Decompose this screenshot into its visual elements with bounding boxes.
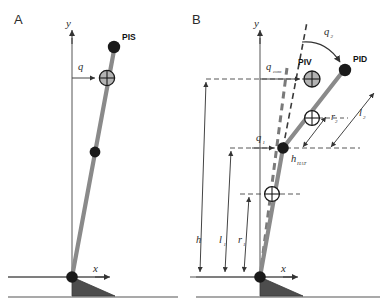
com1-marker-b (265, 187, 280, 202)
com-marker-a (99, 70, 114, 85)
segment1-b (260, 148, 283, 277)
panel-b: B y x PID (190, 12, 380, 297)
length-l2-base: l (359, 107, 362, 118)
length-r1-sub: 1 (243, 242, 246, 247)
com2-marker-b (305, 111, 320, 126)
origin-marker-a (66, 271, 78, 283)
length-r1-label-b: r 1 (238, 234, 246, 247)
angle-q2-sub: 2 (331, 34, 334, 39)
x-axis-label-a: x (92, 262, 98, 274)
piv-com-marker-b (304, 71, 320, 87)
angle-qcom-sub: com (273, 69, 282, 74)
diagram-svg: A y x PIS q (0, 0, 389, 306)
angle-q2-label-b: q 2 (324, 26, 334, 39)
piv-label-b: PIV (298, 57, 312, 67)
length-l2-sub: 2 (363, 115, 366, 120)
y-axis-label-a: y (65, 17, 71, 29)
length-hhat-label-b: h HAT (291, 153, 307, 166)
foot-triangle-b (260, 277, 303, 296)
pid-label-b: PID (353, 54, 367, 64)
hip-joint-marker-b (277, 142, 289, 154)
pid-marker-b (339, 64, 351, 76)
angle-q2-base: q (324, 26, 329, 37)
length-l1-base: l (219, 234, 222, 245)
angle-q1-base: q (256, 132, 261, 143)
x-axis-label-b: x (280, 262, 286, 274)
length-l1-arrow-b (225, 151, 231, 272)
panel-a-letter: A (14, 12, 23, 27)
panel-b-letter: B (192, 12, 201, 27)
angle-qcom-label-b: q com (266, 61, 282, 74)
length-l1-sub: 1 (224, 242, 227, 247)
y-axis-label-b: y (253, 17, 259, 29)
length-r1-arrow-b (244, 197, 249, 272)
angle-q1-sub: 1 (263, 140, 266, 145)
panel-a: A y x PIS q (8, 12, 178, 297)
length-hhat-sub: HAT (296, 161, 307, 166)
origin-marker-b (254, 271, 266, 283)
length-r2-label-b: r 2 (331, 111, 338, 124)
figure-canvas: A y x PIS q (0, 0, 389, 306)
angle-q-label-a: q (78, 61, 83, 72)
length-l2-label-b: l 2 (359, 107, 366, 120)
length-l1-label-b: l 1 (219, 234, 226, 247)
length-h-label-b: h (196, 234, 201, 245)
joint-marker-a (90, 147, 101, 158)
pis-label-a: PIS (122, 32, 136, 42)
segment2-reference-dashed-b (283, 22, 307, 148)
length-hhat-base: h (291, 153, 296, 164)
foot-triangle-a (72, 277, 115, 296)
angle-qcom-base: q (266, 61, 271, 72)
length-r2-sub: 2 (335, 119, 338, 124)
pis-marker-a (108, 41, 120, 53)
